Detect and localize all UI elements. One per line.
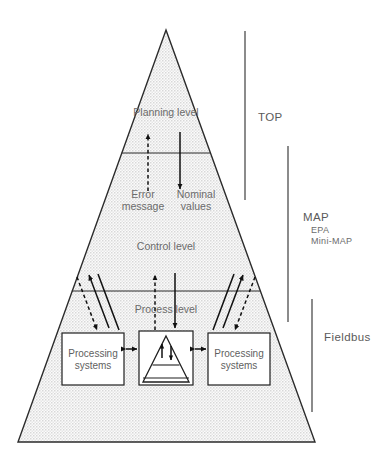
level-label-control: Control level: [137, 240, 195, 252]
flow-label-nominal-line2: values: [181, 200, 211, 212]
processing-systems-right-box[interactable]: [208, 333, 270, 385]
diagram-canvas: Planning level Control level Process lev…: [0, 0, 379, 468]
automation-pyramid-diagram: Planning level Control level Process lev…: [0, 0, 379, 468]
scope-label-top: TOP: [258, 111, 283, 123]
scope-label-map-mini: Mini-MAP: [311, 236, 352, 246]
processing-systems-left-box[interactable]: [62, 333, 124, 385]
processing-systems-left-line1: Processing: [68, 348, 117, 359]
flow-label-error-line2: message: [122, 200, 165, 212]
level-label-planning-line1: Planning level: [133, 106, 198, 118]
level-label-process: Process level: [135, 303, 197, 315]
processing-systems-right-line1: Processing: [214, 348, 263, 359]
scope-label-map-epa: EPA: [311, 225, 329, 235]
processing-systems-right-line2: systems: [221, 360, 258, 371]
flow-label-error-line1: Error: [131, 188, 155, 200]
central-control-unit-box[interactable]: [139, 331, 193, 385]
flow-label-nominal-line1: Nominal: [177, 188, 216, 200]
unit-boxes: Processing systems Processing systems: [62, 331, 270, 385]
scope-label-map: MAP: [303, 211, 329, 223]
processing-systems-left-line2: systems: [75, 360, 112, 371]
scope-label-fieldbus: Fieldbus: [324, 331, 371, 343]
